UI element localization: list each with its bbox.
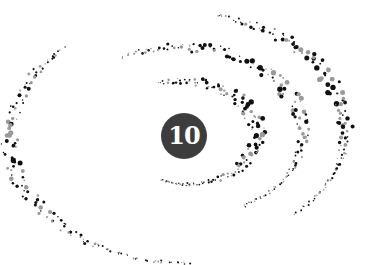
spiral-dot <box>302 205 304 207</box>
spiral-dot <box>197 82 198 83</box>
spiral-dot <box>239 56 240 57</box>
spiral-dot <box>260 132 265 137</box>
spiral-dot <box>166 42 169 45</box>
spiral-dot <box>326 68 331 73</box>
spiral-dot <box>168 181 169 182</box>
spiral-dot <box>240 22 241 23</box>
spiral-dot <box>54 54 56 56</box>
spiral-dot <box>222 85 224 87</box>
spiral-dot <box>228 16 230 18</box>
spiral-dot <box>163 83 164 84</box>
spiral-dot <box>338 141 341 144</box>
spiral-dot <box>13 160 16 163</box>
spiral-dot <box>80 234 83 237</box>
spiral-dot <box>133 53 135 55</box>
spiral-dot <box>231 175 232 176</box>
spiral-dot <box>308 130 309 131</box>
spiral-dot <box>12 106 15 109</box>
spiral-dot <box>274 28 276 30</box>
spiral-dot <box>227 176 228 177</box>
spiral-dot <box>83 239 84 240</box>
spiral-dot <box>316 195 318 197</box>
spiral-dot <box>271 70 276 75</box>
spiral-dot <box>251 202 252 203</box>
spiral-dot <box>52 55 54 57</box>
spiral-dot <box>257 67 259 69</box>
spiral-dot <box>212 179 214 181</box>
spiral-dot <box>16 138 19 141</box>
spiral-dot <box>167 79 169 81</box>
spiral-dot <box>312 52 316 56</box>
spiral-dot <box>210 181 212 183</box>
spiral-dot <box>343 148 345 150</box>
spiral-dot <box>342 157 344 159</box>
spiral-dot <box>18 160 23 165</box>
spiral-dot <box>193 43 195 45</box>
spiral-dot <box>339 112 342 115</box>
spiral-dot <box>293 161 295 163</box>
spiral-dot <box>250 110 253 113</box>
spiral-dot <box>220 93 222 95</box>
spiral-dot <box>201 77 205 81</box>
spiral-dot <box>118 252 119 253</box>
spiral-dot <box>9 177 14 182</box>
spiral-dot <box>83 242 86 245</box>
spiral-dot <box>135 51 137 53</box>
spiral-dot <box>37 212 40 215</box>
spiral-dot <box>251 126 253 128</box>
spiral-dot <box>29 83 30 84</box>
spiral-dot <box>253 63 255 65</box>
spiral-dot <box>24 197 27 200</box>
spiral-dot <box>340 145 342 147</box>
spiral-dot <box>172 182 174 184</box>
spiral-dot <box>249 26 252 29</box>
spiral-dot <box>60 219 63 222</box>
spiral-dot <box>242 93 245 96</box>
spiral-dot <box>59 229 61 231</box>
spiral-dot <box>336 163 337 164</box>
spiral-dot <box>162 179 164 181</box>
spiral-dot <box>338 149 340 151</box>
spiral-dot <box>298 47 303 52</box>
spiral-dot <box>22 102 24 104</box>
spiral-dot <box>341 154 343 156</box>
spiral-dot <box>319 76 324 81</box>
spiral-dot <box>179 82 182 85</box>
spiral-dot <box>305 113 308 116</box>
spiral-dot <box>11 117 14 120</box>
spiral-dot <box>246 203 248 205</box>
spiral-dot <box>12 165 15 168</box>
spiral-dot <box>25 94 28 97</box>
spiral-dot <box>47 59 48 60</box>
spiral-dot <box>341 125 345 129</box>
spiral-dot <box>109 250 111 252</box>
spiral-dot <box>52 212 55 215</box>
spiral-dot <box>160 262 162 264</box>
spiral-dot <box>39 65 42 68</box>
spiral-dot <box>83 241 84 242</box>
spiral-dot <box>314 198 315 199</box>
spiral-dot <box>176 183 178 185</box>
spiral-dot <box>177 262 179 264</box>
spiral-dot <box>138 49 140 51</box>
spiral-dot <box>195 50 198 53</box>
spiral-dot <box>208 181 210 183</box>
spiral-dot <box>194 82 196 84</box>
spiral-dot <box>179 183 181 185</box>
spiral-dot <box>336 93 338 95</box>
spiral-dot <box>292 168 294 170</box>
spiral-dot <box>238 171 240 173</box>
spiral-dot <box>328 92 332 96</box>
spiral-dot <box>295 152 297 154</box>
spiral-dot <box>314 195 316 197</box>
spiral-dot <box>290 35 294 39</box>
spiral-dot <box>291 42 295 46</box>
spiral-dot <box>272 190 273 191</box>
spiral-dot <box>188 48 191 51</box>
spiral-dot <box>220 175 222 177</box>
spiral-dot <box>233 102 236 105</box>
spiral-dot <box>263 195 265 197</box>
spiral-dot <box>282 87 286 91</box>
spiral-dot <box>294 115 297 118</box>
spiral-dot <box>180 45 184 49</box>
